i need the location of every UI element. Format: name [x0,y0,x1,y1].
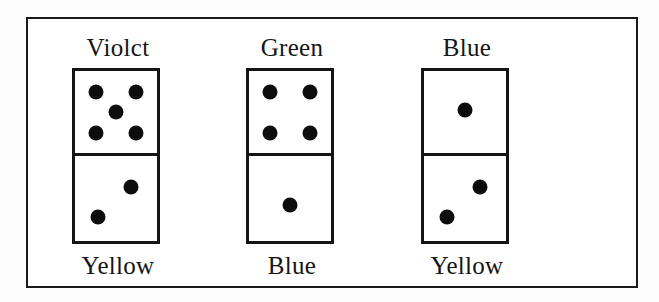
pip [263,125,278,140]
domino-tile-2-bottom-face [249,156,331,241]
domino-column-1: Violct Yellow [43,19,193,290]
pip [109,105,124,120]
domino-tile-2 [246,68,334,244]
pip [123,180,138,195]
domino-top-label-3: Blue [392,33,542,63]
pip [128,125,143,140]
pip [89,125,104,140]
domino-top-label-1: Violct [43,33,193,63]
pip [283,198,298,213]
domino-bottom-label-2: Blue [217,251,367,281]
pip [263,84,278,99]
domino-bottom-label-1: Yellow [43,251,193,281]
domino-bottom-label-3: Yellow [392,251,542,281]
pip [472,180,487,195]
domino-tile-2-top-face [249,71,331,156]
pip [302,84,317,99]
pip [439,210,454,225]
figure-outer-frame: Violct Yellow Green [26,17,638,288]
domino-column-2: Green Blue [217,19,367,290]
domino-tile-1 [72,68,160,244]
domino-top-label-2: Green [217,33,367,63]
figure-root: Violct Yellow Green [0,0,659,302]
pip [458,103,473,118]
domino-tile-3-bottom-face [424,156,506,241]
pip [89,84,104,99]
domino-tile-1-top-face [75,71,157,156]
pip [90,210,105,225]
domino-tile-3-top-face [424,71,506,156]
domino-column-3: Blue Yellow [392,19,542,290]
domino-tile-1-bottom-face [75,156,157,241]
domino-tile-3 [421,68,509,244]
pip [128,84,143,99]
pip [302,125,317,140]
